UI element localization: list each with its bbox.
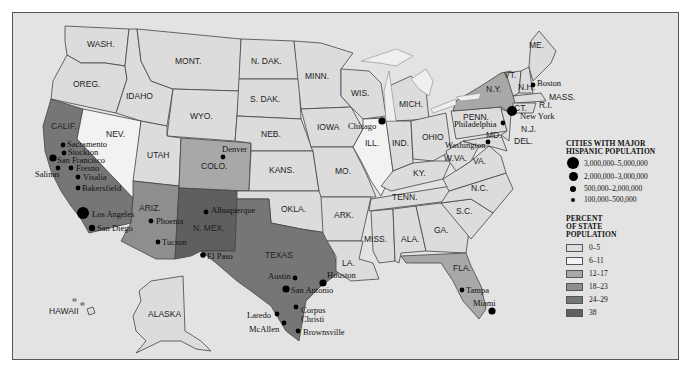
legend-range-row: 38 <box>566 306 676 319</box>
swatch-icon <box>566 270 583 278</box>
label-ri: R.I. <box>539 100 552 110</box>
city-dot-laredo <box>275 312 280 317</box>
label-nmex: N. MEX. <box>193 223 225 233</box>
city-bakersfield: Bakersfield <box>82 183 122 193</box>
city-dot-san-francisco <box>49 154 56 161</box>
legend-size-label: 500,000–2,000,000 <box>584 184 642 193</box>
label-mont: MONT. <box>175 56 201 66</box>
city-dot-fresno <box>69 166 74 171</box>
legend-range-label: 18–23 <box>589 282 608 291</box>
legend-percent-title-line3: POPULATION <box>566 231 676 239</box>
city-boston: Boston <box>537 78 562 88</box>
city-los-angeles: Los Angeles <box>92 209 134 219</box>
legend-size-label: 3,000,000–5,000,000 <box>584 159 648 168</box>
city-visalia: Visalia <box>83 172 107 182</box>
label-wva: W.VA. <box>444 153 467 163</box>
label-hawaii: HAWAII <box>49 306 79 316</box>
label-ndak: N. DAK. <box>251 56 282 66</box>
city-dot-brownsville <box>296 329 301 334</box>
legend-range-row: 12–17 <box>566 267 676 280</box>
swatch-icon <box>566 257 583 265</box>
label-ohio: OHIO <box>422 132 444 142</box>
city-dot-denver <box>221 155 226 160</box>
city-san-diego: San Diego <box>97 223 133 233</box>
city-houston: Houston <box>327 270 357 280</box>
city-el-paso: El Paso <box>207 251 233 261</box>
legend-range-label: 24–29 <box>589 295 608 304</box>
legend-range-row: 24–29 <box>566 293 676 306</box>
city-miami: Miami <box>473 298 496 308</box>
legend-range-label: 6–11 <box>589 256 604 265</box>
city-dot-el-paso <box>200 252 206 258</box>
label-ny: N.Y. <box>486 84 501 94</box>
legend-range-row: 0–5 <box>566 241 676 254</box>
city-dot-chicago <box>378 117 385 124</box>
city-tampa: Tampa <box>466 285 489 295</box>
label-calif: CALIF. <box>51 121 77 131</box>
city-dot-mcallen <box>282 321 287 326</box>
label-idaho: IDAHO <box>126 91 153 101</box>
label-ill: ILL. <box>365 138 379 148</box>
city-philadelphia: Philadelphia <box>454 119 497 129</box>
legend-percent-title: PERCENT OF STATE POPULATION <box>566 215 676 239</box>
city-dot-albuquerque <box>204 210 209 215</box>
label-minn: MINN. <box>305 71 329 81</box>
legend-size-row: 100,000–500,000 <box>566 194 676 205</box>
legend-cities-title: CITIES WITH MAJOR HISPANIC POPULATION <box>566 140 676 156</box>
city-phoenix: Phoenix <box>156 216 185 226</box>
label-oreg: OREG. <box>73 79 100 89</box>
label-texas: TEXAS <box>265 250 293 260</box>
label-mass: MASS. <box>549 92 575 102</box>
label-wash: WASH. <box>87 39 115 49</box>
city-dot-bakersfield <box>76 186 81 191</box>
label-del: DEL. <box>514 136 533 146</box>
city-dot-philadelphia <box>501 121 506 126</box>
label-sc: S.C. <box>456 206 473 216</box>
swatch-icon <box>566 296 583 304</box>
label-nj: N.J. <box>521 124 536 134</box>
city-washington: Washington <box>445 140 486 150</box>
label-tenn: TENN. <box>392 192 418 202</box>
city-dot-sacramento <box>61 143 66 148</box>
city-tucson: Tucson <box>162 237 187 247</box>
label-wyo: WYO. <box>190 111 213 121</box>
label-ala: ALA. <box>401 234 419 244</box>
city-laredo: Laredo <box>247 310 271 320</box>
city-christi: Christi <box>301 314 325 324</box>
label-ark: ARK. <box>334 210 354 220</box>
city-dot-corpus-christi <box>294 305 299 310</box>
city-austin: Austin <box>268 271 291 281</box>
city-dot-austin <box>293 276 298 281</box>
label-ga: GA. <box>434 225 449 235</box>
city-dot-tucson <box>156 240 161 245</box>
city-albuquerque: Albuquerque <box>211 205 256 215</box>
label-va: VA. <box>473 156 486 166</box>
label-nc: N.C. <box>471 183 488 193</box>
legend-cities-title-line2: HISPANIC POPULATION <box>566 148 676 156</box>
tiny-circle-icon <box>571 198 575 202</box>
city-new-york: New York <box>520 111 555 121</box>
label-miss: MISS. <box>364 234 387 244</box>
legend-size-row: 500,000–2,000,000 <box>566 183 676 194</box>
city-dot-houston <box>319 279 326 286</box>
legend-size-label: 2,000,000–3,000,000 <box>584 172 648 181</box>
city-san-antonio: San Antonio <box>291 285 333 295</box>
label-utah: UTAH <box>147 150 170 160</box>
legend-range-label: 38 <box>589 308 597 317</box>
city-dot-san-antonio <box>282 285 289 292</box>
label-mo: MO. <box>335 166 351 176</box>
city-dot-visalia <box>76 175 81 180</box>
map-legend: CITIES WITH MAJOR HISPANIC POPULATION 3,… <box>566 140 676 319</box>
small-circle-icon <box>570 186 576 192</box>
label-okla: OKLA. <box>281 204 306 214</box>
city-brownsville: Brownsville <box>303 327 345 337</box>
medium-circle-icon <box>569 172 578 181</box>
label-vt: VT. <box>504 70 516 80</box>
legend-size-row: 3,000,000–5,000,000 <box>566 156 676 170</box>
swatch-icon <box>566 244 583 252</box>
legend-range-label: 12–17 <box>589 269 608 278</box>
legend-range-row: 18–23 <box>566 280 676 293</box>
city-salinas: Salinas <box>35 169 60 179</box>
city-dot-phoenix <box>149 219 154 224</box>
city-dot-boston <box>531 83 536 88</box>
